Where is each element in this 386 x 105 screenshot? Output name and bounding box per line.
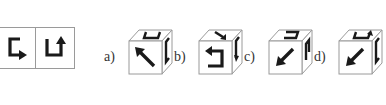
cube-icon	[268, 18, 314, 76]
option-d[interactable]: d)	[314, 18, 384, 80]
cube-icon	[338, 18, 384, 76]
net-divider	[35, 28, 36, 68]
bracket-arrow-right-icon	[6, 36, 30, 62]
unfolded-net	[0, 27, 75, 69]
bracket-arrow-up-icon	[43, 34, 69, 62]
option-a[interactable]: a)	[104, 18, 174, 80]
option-label: c)	[244, 49, 255, 65]
option-label: b)	[174, 49, 186, 65]
option-b[interactable]: b)	[174, 18, 244, 80]
option-label: d)	[314, 49, 326, 65]
option-c[interactable]: c)	[244, 18, 314, 80]
cube-icon	[198, 18, 244, 76]
cube-icon	[128, 18, 174, 76]
option-label: a)	[104, 49, 115, 65]
